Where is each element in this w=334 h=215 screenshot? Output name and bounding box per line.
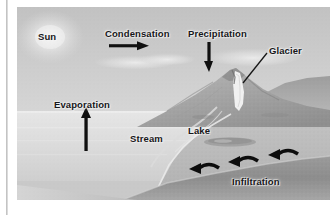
label-evaporation: Evaporation (54, 100, 110, 110)
page-root: Sun Condensation Precipitation Glacier E… (0, 0, 334, 215)
label-stream: Stream (130, 134, 163, 144)
label-infiltration: Infiltration (232, 177, 280, 187)
label-condensation: Condensation (105, 29, 170, 39)
label-glacier: Glacier (269, 46, 302, 56)
label-sun: Sun (38, 32, 56, 42)
label-lake: Lake (188, 126, 210, 136)
left-margin-rule (6, 0, 8, 215)
label-precipitation: Precipitation (188, 29, 247, 39)
water-cycle-figure: Sun Condensation Precipitation Glacier E… (17, 7, 330, 200)
